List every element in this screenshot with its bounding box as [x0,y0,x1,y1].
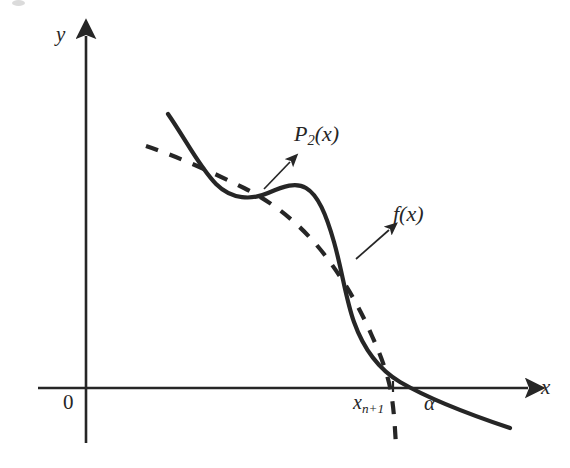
math-figure: y x 0 P2(x) f(x) xn+1 α [0,0,570,468]
x-axis-label: x [541,377,550,398]
origin-label: 0 [63,392,74,413]
tick-label-xn1: xn+1 [353,392,384,415]
figure-canvas [0,0,570,468]
leader-fx [356,230,389,259]
p2-subscript: 2 [307,132,314,148]
p2-base: P [294,121,307,146]
p2-argument: (x) [315,121,339,146]
y-axis-label: y [56,24,65,45]
tick-label-alpha: α [424,393,435,414]
xn1-subscript: n+1 [362,401,384,416]
curve-label-p2: P2(x) [294,123,339,148]
axis-group [38,36,528,443]
curve-f [168,114,510,428]
curve-label-f: f(x) [393,203,424,225]
xn1-base: x [353,391,362,413]
